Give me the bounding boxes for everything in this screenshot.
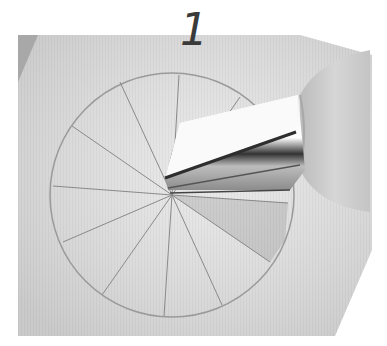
step-photo: 1 xyxy=(0,0,387,346)
step-number: 1 xyxy=(180,8,208,52)
